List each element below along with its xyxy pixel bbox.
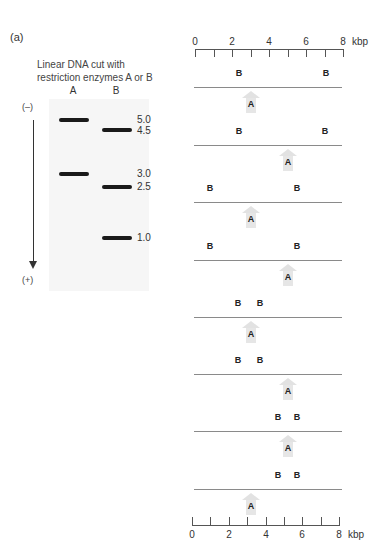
top-ruler-tick	[343, 49, 344, 57]
gel-title-line2: restriction enzymes A or B	[37, 71, 153, 84]
top-ruler-tick	[251, 49, 252, 57]
band-b-1kbp	[102, 236, 132, 240]
top-ruler-tick-label: 8	[336, 36, 350, 47]
lane-label-b: B	[110, 85, 122, 96]
site-a-label: A	[279, 157, 297, 167]
top-ruler-tick-label: 4	[262, 36, 276, 47]
bottom-ruler-tick	[247, 517, 248, 525]
site-b-marker: B	[290, 470, 304, 480]
site-a-label: A	[279, 443, 297, 453]
band-size-label: 4.5	[137, 125, 151, 136]
site-b-marker: B	[253, 355, 267, 365]
band-a-5kbp	[59, 118, 89, 122]
negative-pole-label: (–)	[22, 102, 33, 112]
top-ruler-tick-label: 0	[188, 36, 202, 47]
band-size-label: 5.0	[137, 114, 151, 125]
map-line-1	[194, 87, 342, 88]
arrow-head-icon	[242, 493, 260, 500]
map-line-8	[194, 489, 342, 490]
top-ruler-tick	[306, 49, 307, 57]
site-b-marker: B	[318, 126, 332, 136]
site-a-label: A	[242, 214, 260, 224]
site-b-marker: B	[290, 183, 304, 193]
bottom-ruler-tick	[321, 517, 322, 525]
lane-label-a: A	[67, 85, 79, 96]
top-ruler-tick	[288, 49, 289, 57]
band-a-3kbp	[59, 172, 89, 176]
arrow-head-icon	[242, 91, 260, 98]
arrow-head-icon	[29, 261, 37, 269]
top-ruler-tick	[269, 49, 270, 57]
positive-pole-label: (+)	[22, 275, 33, 285]
bottom-ruler-tick-label: 2	[222, 529, 236, 540]
site-a-arrow-icon: A	[242, 206, 260, 228]
bottom-ruler-axis-line	[192, 525, 340, 526]
band-size-label: 2.5	[137, 181, 151, 192]
bottom-ruler-tick-label: 4	[259, 529, 273, 540]
site-a-arrow-icon: A	[242, 321, 260, 343]
site-b-marker: B	[290, 241, 304, 251]
band-size-label: 1.0	[137, 232, 151, 243]
arrow-head-icon	[242, 321, 260, 328]
arrow-head-icon	[279, 149, 297, 156]
site-b-marker: B	[290, 412, 304, 422]
bottom-ruler-tick-label: 8	[332, 529, 346, 540]
map-line-2	[194, 145, 342, 146]
site-b-marker: B	[231, 355, 245, 365]
site-a-arrow-icon: A	[279, 435, 297, 457]
bottom-ruler-tick	[302, 517, 303, 525]
arrow-head-icon	[279, 264, 297, 271]
band-b-4-5kbp	[102, 128, 132, 132]
site-a-label: A	[279, 386, 297, 396]
site-b-marker: B	[232, 68, 246, 78]
gel	[49, 99, 149, 291]
map-line-6	[194, 374, 342, 375]
gel-title-line1: Linear DNA cut with	[37, 58, 153, 71]
site-a-label: A	[242, 99, 260, 109]
panel-label: (a)	[10, 31, 23, 43]
bottom-ruler-tick-label: 6	[295, 529, 309, 540]
site-b-marker: B	[319, 68, 333, 78]
site-a-label: A	[279, 272, 297, 282]
top-ruler-tick	[325, 49, 326, 57]
site-b-marker: B	[203, 241, 217, 251]
bottom-ruler-unit-label: kbp	[348, 529, 364, 540]
top-ruler-tick	[214, 49, 215, 57]
bottom-ruler-tick	[229, 517, 230, 525]
bottom-ruler-tick	[266, 517, 267, 525]
site-b-marker: B	[271, 470, 285, 480]
site-b-marker: B	[232, 126, 246, 136]
top-ruler-tick	[195, 49, 196, 57]
top-ruler-tick	[232, 49, 233, 57]
bottom-ruler-tick	[284, 517, 285, 525]
site-a-label: A	[242, 329, 260, 339]
arrow-head-icon	[279, 435, 297, 442]
site-b-marker: B	[253, 298, 267, 308]
top-ruler-unit-label: kbp	[352, 36, 368, 47]
bottom-ruler-tick	[192, 517, 193, 525]
bottom-ruler-tick-label: 0	[185, 529, 199, 540]
arrow-head-icon	[242, 206, 260, 213]
top-ruler-tick-label: 6	[299, 36, 313, 47]
band-b-2-5kbp	[102, 185, 132, 189]
migration-arrow-icon	[33, 120, 34, 262]
map-line-3	[194, 202, 342, 203]
site-a-arrow-icon: A	[279, 149, 297, 171]
map-line-5	[194, 317, 342, 318]
site-a-arrow-icon: A	[242, 493, 260, 515]
top-ruler-tick-label: 2	[225, 36, 239, 47]
site-a-arrow-icon: A	[279, 264, 297, 286]
map-line-4	[194, 260, 342, 261]
bottom-ruler-tick	[210, 517, 211, 525]
site-b-marker: B	[271, 412, 285, 422]
arrow-head-icon	[279, 378, 297, 385]
gel-title: Linear DNA cut with restriction enzymes …	[37, 58, 153, 84]
band-size-label: 3.0	[137, 168, 151, 179]
site-b-marker: B	[203, 183, 217, 193]
bottom-ruler-tick	[339, 517, 340, 525]
site-a-label: A	[242, 501, 260, 511]
site-a-arrow-icon: A	[242, 91, 260, 113]
map-line-7	[194, 431, 342, 432]
site-b-marker: B	[231, 298, 245, 308]
site-a-arrow-icon: A	[279, 378, 297, 400]
